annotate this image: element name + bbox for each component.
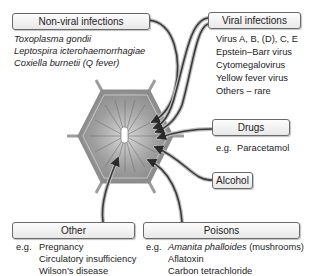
- other-item: Circulatory insufficiency: [39, 253, 136, 266]
- viral-item: Others – rare: [216, 85, 271, 98]
- viral-item: Cytomegalovirus: [216, 59, 285, 72]
- poisons-box: Poisons: [143, 222, 300, 239]
- other-eg: e.g.: [16, 241, 32, 254]
- non-viral-item: Toxoplasma gondii: [14, 33, 91, 46]
- poisons-item: Amanita phalloides (mushrooms): [168, 241, 304, 254]
- other-box: Other: [12, 222, 135, 239]
- viral-item: Yellow fever virus: [216, 72, 288, 85]
- viral-infections-label: Viral infections: [222, 15, 287, 26]
- viral-item: Virus A, B, (D), C, E: [216, 33, 298, 46]
- alcohol-box: Alcohol: [212, 172, 253, 189]
- non-viral-infections-label: Non-viral infections: [38, 16, 123, 27]
- other-label: Other: [61, 225, 86, 236]
- other-item: Wilson’s disease: [39, 265, 108, 276]
- poisons-item-note: (mushrooms): [249, 242, 304, 252]
- other-item: Pregnancy: [39, 241, 83, 254]
- non-viral-item: Coxiella burnetii (Q fever): [14, 57, 119, 70]
- alcohol-label: Alcohol: [216, 175, 249, 186]
- viral-item: Epstein–Barr virus: [216, 46, 292, 59]
- drugs-label: Drugs: [238, 122, 265, 133]
- poisons-item: Carbon tetrachloride: [168, 265, 252, 276]
- non-viral-item: Leptospira icterohaemorrhagiae: [14, 45, 145, 58]
- poisons-item: Aflatoxin: [168, 253, 204, 266]
- drugs-eg: e.g.: [216, 142, 232, 155]
- poisons-label: Poisons: [204, 225, 240, 236]
- poisons-item-species: Amanita phalloides: [168, 242, 247, 252]
- drugs-box: Drugs: [212, 119, 290, 136]
- non-viral-infections-box: Non-viral infections: [12, 13, 150, 30]
- poisons-eg: e.g.: [146, 241, 162, 254]
- drugs-item: Paracetamol: [237, 142, 289, 155]
- viral-infections-box: Viral infections: [208, 12, 301, 29]
